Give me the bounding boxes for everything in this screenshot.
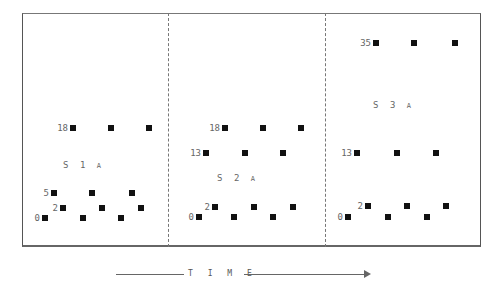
row-value-label: 5 bbox=[44, 188, 49, 198]
row-value-label: 2 bbox=[358, 201, 363, 211]
time-axis-arrow: T I M E bbox=[116, 269, 376, 279]
square-marker-icon bbox=[354, 150, 360, 156]
square-marker-icon bbox=[42, 215, 48, 221]
row-value-label: 2 bbox=[205, 202, 210, 212]
square-marker-icon bbox=[99, 205, 105, 211]
row-value-label: 13 bbox=[341, 148, 352, 158]
square-marker-icon bbox=[365, 203, 371, 209]
row-value-label: 2 bbox=[53, 203, 58, 213]
square-marker-icon bbox=[196, 214, 202, 220]
square-marker-icon bbox=[80, 215, 86, 221]
diagram-frame bbox=[22, 13, 481, 247]
panel-label: S 3 A bbox=[373, 100, 411, 110]
square-marker-icon bbox=[290, 204, 296, 210]
square-marker-icon bbox=[251, 204, 257, 210]
square-marker-icon bbox=[89, 190, 95, 196]
square-marker-icon bbox=[298, 125, 304, 131]
square-marker-icon bbox=[260, 125, 266, 131]
row-value-label: 0 bbox=[35, 213, 40, 223]
square-marker-icon bbox=[70, 125, 76, 131]
square-marker-icon bbox=[411, 40, 417, 46]
square-marker-icon bbox=[373, 40, 379, 46]
square-marker-icon bbox=[433, 150, 439, 156]
square-marker-icon bbox=[345, 214, 351, 220]
square-marker-icon bbox=[270, 214, 276, 220]
arrowhead-icon bbox=[364, 270, 371, 278]
row-value-label: 18 bbox=[209, 123, 220, 133]
row-value-label: 0 bbox=[189, 212, 194, 222]
square-marker-icon bbox=[404, 203, 410, 209]
square-marker-icon bbox=[51, 190, 57, 196]
time-axis-line-right bbox=[244, 274, 366, 275]
square-marker-icon bbox=[129, 190, 135, 196]
square-marker-icon bbox=[452, 40, 458, 46]
square-marker-icon bbox=[231, 214, 237, 220]
square-marker-icon bbox=[60, 205, 66, 211]
square-marker-icon bbox=[212, 204, 218, 210]
row-value-label: 18 bbox=[57, 123, 68, 133]
row-value-label: 13 bbox=[190, 148, 201, 158]
panel-divider-1 bbox=[168, 13, 169, 247]
time-axis-line-left bbox=[116, 274, 184, 275]
row-value-label: 35 bbox=[360, 38, 371, 48]
square-marker-icon bbox=[138, 205, 144, 211]
square-marker-icon bbox=[118, 215, 124, 221]
panel-divider-2 bbox=[325, 13, 326, 247]
panel-label: S 2 A bbox=[217, 173, 255, 183]
square-marker-icon bbox=[108, 125, 114, 131]
square-marker-icon bbox=[146, 125, 152, 131]
square-marker-icon bbox=[222, 125, 228, 131]
square-marker-icon bbox=[394, 150, 400, 156]
square-marker-icon bbox=[203, 150, 209, 156]
panel-label: S 1 A bbox=[63, 160, 101, 170]
square-marker-icon bbox=[242, 150, 248, 156]
square-marker-icon bbox=[280, 150, 286, 156]
row-value-label: 0 bbox=[338, 212, 343, 222]
square-marker-icon bbox=[385, 214, 391, 220]
square-marker-icon bbox=[443, 203, 449, 209]
square-marker-icon bbox=[424, 214, 430, 220]
